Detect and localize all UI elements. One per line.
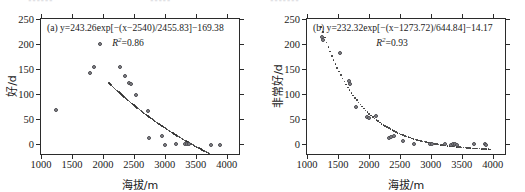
y-tick-label-b: 100 <box>284 89 300 100</box>
data-point-a <box>163 143 167 147</box>
x-tick-top-b <box>400 14 401 19</box>
data-point-a <box>160 134 164 138</box>
x-tick-label-b: 1000 <box>297 159 318 170</box>
fit-curve-point-b <box>352 95 354 97</box>
data-point-a <box>146 109 150 113</box>
x-tick-label-b: 3000 <box>420 159 441 170</box>
x-tick-label-a: 3000 <box>154 159 175 170</box>
y-tick-a <box>36 144 41 145</box>
equation-annotation-b: (b) y=232.32exp[−(x−1273.72)/644.84]−14.… <box>313 22 501 49</box>
fit-curve-point-b <box>363 108 365 110</box>
data-point-a <box>118 65 122 69</box>
x-tick-label-b: 2500 <box>389 159 410 170</box>
y-tick-a <box>36 119 41 120</box>
data-point-b <box>392 134 396 138</box>
data-point-a <box>174 142 178 146</box>
fit-curve-point-b <box>345 84 347 86</box>
x-tick-label-b: 3500 <box>451 159 472 170</box>
data-point-b <box>338 51 342 55</box>
x-tick-top-b <box>462 14 463 19</box>
x-tick-top-a <box>227 14 228 19</box>
data-point-a <box>88 71 92 75</box>
figure-container: ▪▪▪▪▪▪ ▪▪▪▪▪ ▪▪▪▪▪▪▪ (a) y=243.26exp[−(x… <box>0 0 525 192</box>
equation-text-b: (b) y=232.32exp[−(x−1273.72)/644.84]−14.… <box>313 22 501 34</box>
fit-curve-point-b <box>333 59 335 61</box>
r-squared-a: R2=0.86 <box>47 34 235 49</box>
fit-curve-point-b <box>342 78 344 80</box>
y-tick-label-a: 200 <box>18 39 34 50</box>
data-point-a <box>209 143 213 147</box>
fit-curve-point-b <box>329 51 331 53</box>
y-tick-b <box>302 94 307 95</box>
x-tick-label-a: 2500 <box>123 159 144 170</box>
x-tick-label-a: 3500 <box>185 159 206 170</box>
plot-area-a: (a) y=243.26exp[−(x−2540)/2455.83]−169.3… <box>40 18 240 155</box>
y-tick-label-a: 0 <box>29 139 34 150</box>
y-tick-label-a: 100 <box>18 89 34 100</box>
y-axis-title-b: 非常好/d <box>269 64 285 108</box>
fit-curve-point-b <box>335 63 337 65</box>
data-point-a <box>123 74 127 78</box>
fit-curve-point-b <box>340 74 342 76</box>
x-tick-top-b <box>431 14 432 19</box>
data-point-b <box>348 82 352 86</box>
y-tick-b <box>302 19 307 20</box>
data-point-b <box>412 142 416 146</box>
fit-curve-point-b <box>351 92 353 94</box>
y-tick-right-b <box>505 119 510 120</box>
data-point-b <box>321 38 325 42</box>
data-point-b <box>472 142 476 146</box>
data-point-a <box>98 42 102 46</box>
x-tick-label-a: 1500 <box>61 159 82 170</box>
x-tick-label-b: 2000 <box>358 159 379 170</box>
x-tick-label-a: 1000 <box>31 159 52 170</box>
x-tick-top-b <box>493 14 494 19</box>
data-point-b <box>443 142 447 146</box>
y-tick-b <box>302 144 307 145</box>
fit-curve-point-b <box>463 147 465 149</box>
y-tick-right-a <box>239 19 244 20</box>
y-tick-right-a <box>239 144 244 145</box>
y-tick-b <box>302 69 307 70</box>
fit-curve-point-b <box>336 67 338 69</box>
data-point-b <box>354 105 358 109</box>
fit-curve-point-b <box>360 104 362 106</box>
x-tick-top-a <box>165 14 166 19</box>
fit-curve-point-b <box>338 71 340 73</box>
x-tick-top-a <box>134 14 135 19</box>
y-tick-b <box>302 44 307 45</box>
r-squared-value-a: =0.86 <box>122 37 144 48</box>
x-tick-label-a: 2000 <box>92 159 113 170</box>
chart-panel-a: (a) y=243.26exp[−(x−2540)/2455.83]−169.3… <box>0 0 262 192</box>
y-tick-right-b <box>505 44 510 45</box>
fit-curve-point-b <box>489 149 491 151</box>
y-tick-right-b <box>505 144 510 145</box>
y-tick-right-b <box>505 69 510 70</box>
equation-text-a: (a) y=243.26exp[−(x−2540)/2455.83]−169.3… <box>47 22 235 34</box>
fit-curve-point-b <box>328 46 330 48</box>
x-tick-label-b: 4000 <box>482 159 503 170</box>
r-squared-value-b: =0.93 <box>386 37 408 48</box>
y-tick-a <box>36 44 41 45</box>
chart-panel-b: (b) y=232.32exp[−(x−1273.72)/644.84]−14.… <box>262 0 524 192</box>
data-point-a <box>187 142 191 146</box>
y-tick-b <box>302 119 307 120</box>
y-tick-a <box>36 19 41 20</box>
x-axis-title-b: 海拔/m <box>306 176 506 192</box>
x-tick-top-a <box>103 14 104 19</box>
equation-annotation-a: (a) y=243.26exp[−(x−2540)/2455.83]−169.3… <box>47 22 235 49</box>
x-axis-title-a: 海拔/m <box>40 176 240 192</box>
x-tick-top-a <box>196 14 197 19</box>
y-tick-right-b <box>505 94 510 95</box>
data-point-b <box>367 116 371 120</box>
fit-curve-point-b <box>347 87 349 89</box>
y-tick-label-b: 250 <box>284 14 300 25</box>
fit-curve-point-b <box>322 31 324 33</box>
y-tick-label-b: 0 <box>295 139 300 150</box>
data-point-a <box>218 143 222 147</box>
fit-curve-point-b <box>356 99 358 101</box>
data-point-b <box>374 114 378 118</box>
y-tick-label-b: 150 <box>284 64 300 75</box>
fit-curve-point-b <box>320 26 322 28</box>
y-tick-right-a <box>239 119 244 120</box>
